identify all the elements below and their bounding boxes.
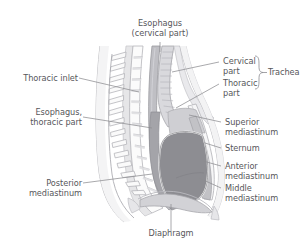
label-esophagus-cervical: Esophagus (cervical part) xyxy=(112,18,208,38)
label-anterior-mediastinum: Anterior mediastinum xyxy=(225,161,304,181)
anatomy-figure: Esophagus (cervical part) Thoracic inlet… xyxy=(0,0,304,248)
label-esophagus-thoracic: Esophagus, thoracic part xyxy=(2,107,82,127)
label-posterior-mediastinum: Posterior mediastinum xyxy=(2,178,82,198)
label-trachea: Trachea xyxy=(268,67,304,77)
label-thoracic-inlet: Thoracic inlet xyxy=(2,73,78,83)
label-superior-mediastinum: Superior mediastinum xyxy=(225,117,304,137)
label-thoracic-part: Thoracic part xyxy=(223,78,279,98)
label-sternum: Sternum xyxy=(225,143,304,153)
label-middle-mediastinum: Middle mediastinum xyxy=(225,183,304,203)
label-diaphragm: Diaphragm xyxy=(136,228,206,238)
